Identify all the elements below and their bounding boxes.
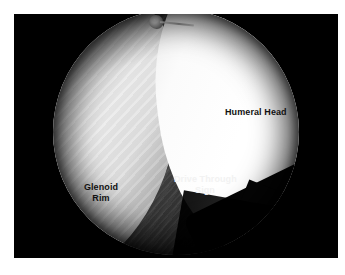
label-humeral-head-line-1: Humeral Head: [225, 107, 287, 118]
label-drive-through-sign-line-1: Drive Through: [174, 174, 236, 185]
probe-shaft: [160, 21, 194, 27]
label-drive-through-sign: Drive Through Sign: [174, 174, 236, 196]
label-glenoid-rim-line-1: Glenoid: [78, 182, 124, 193]
label-glenoid-rim: Glenoid Rim: [78, 182, 124, 204]
probe-instrument: [149, 15, 195, 33]
arthroscopy-figure: Humeral Head Glenoid Rim Drive Through S…: [0, 0, 345, 275]
label-humeral-head: Humeral Head: [225, 107, 287, 118]
label-glenoid-rim-line-2: Rim: [78, 193, 124, 204]
scope-image-layer: [53, 14, 299, 255]
arthroscope-circular-view: [53, 14, 299, 255]
label-drive-through-sign-line-2: Sign: [174, 185, 236, 196]
photo-panel: Humeral Head Glenoid Rim Drive Through S…: [14, 14, 338, 258]
